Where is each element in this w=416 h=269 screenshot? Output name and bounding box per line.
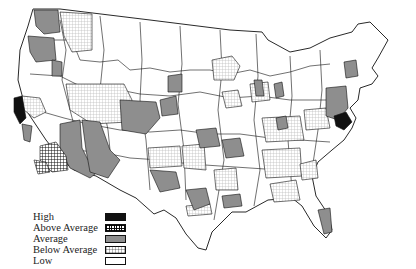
legend-item-low: Low [33, 255, 126, 266]
legend-item-above-average: Above Average [33, 222, 126, 233]
swatch-above-average [105, 224, 126, 232]
legend-label: High [33, 211, 103, 222]
legend-item-high: High [33, 211, 126, 222]
legend-label: Below Average [33, 244, 103, 255]
legend-label: Above Average [33, 222, 103, 233]
legend-label: Average [33, 233, 103, 244]
legend-item-below-average: Below Average [33, 244, 126, 255]
swatch-low [105, 257, 126, 265]
swatch-high [105, 213, 126, 221]
map-legend: High Above Average Average Below Average… [33, 211, 126, 266]
swatch-average [105, 235, 126, 243]
legend-label: Low [33, 255, 103, 266]
swatch-below-average [105, 246, 126, 254]
legend-item-average: Average [33, 233, 126, 244]
